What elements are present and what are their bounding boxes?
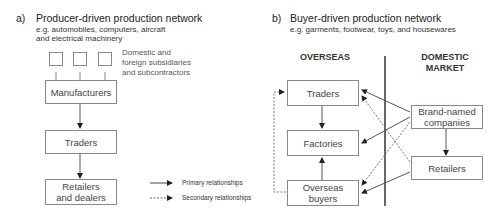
subsidiary-box-2 bbox=[73, 52, 87, 66]
traders-b-label: Traders bbox=[307, 88, 339, 99]
legend-secondary: Secondary relationships bbox=[182, 194, 251, 201]
overseas-buyers-line-1: Overseas bbox=[303, 182, 344, 193]
brand-line-2: companies bbox=[424, 117, 470, 128]
panel-a-title: Producer-driven production network bbox=[36, 12, 202, 24]
retailers-line-2: and dealers bbox=[56, 192, 106, 203]
panel-a-label: a) bbox=[16, 12, 25, 24]
brand-line-1: Brand-named bbox=[418, 106, 476, 117]
manufacturers-label: Manufacturers bbox=[51, 87, 112, 98]
subsidiaries-note-1: Domestic and bbox=[122, 48, 171, 57]
subsidiaries-note-3: and subcontractors bbox=[122, 68, 190, 77]
panel-b-subtitle: e.g. garments, footwear, toys, and house… bbox=[290, 25, 456, 34]
traders-a-label: Traders bbox=[65, 137, 97, 148]
panel-b-title: Buyer-driven production network bbox=[290, 12, 441, 24]
overseas-header: OVERSEAS bbox=[290, 52, 360, 63]
subsidiaries-note-2: foreign subsidiaries bbox=[122, 58, 191, 67]
retailers-node-b: Retailers bbox=[411, 156, 483, 180]
domestic-header-2: MARKET bbox=[405, 63, 485, 74]
brand-named-companies-node: Brand-named companies bbox=[411, 105, 483, 129]
traders-node-a: Traders bbox=[45, 130, 117, 154]
factories-node: Factories bbox=[287, 130, 359, 156]
traders-node-b: Traders bbox=[287, 80, 359, 106]
factories-label: Factories bbox=[303, 138, 342, 149]
panel-b-label: b) bbox=[272, 12, 281, 24]
retailers-b-label: Retailers bbox=[428, 163, 466, 174]
manufacturers-node: Manufacturers bbox=[45, 80, 117, 104]
panel-a-subtitle-2: and electrical machinery bbox=[36, 34, 122, 43]
retailers-dealers-node: Retailers and dealers bbox=[45, 179, 117, 205]
subsidiary-box-3 bbox=[98, 52, 112, 66]
subsidiary-box-1 bbox=[49, 52, 63, 66]
retailers-line-1: Retailers bbox=[62, 181, 100, 192]
overseas-buyers-line-2: buyers bbox=[309, 193, 338, 204]
panel-a-subtitle-1: e.g. automobiles, computers, aircraft bbox=[36, 25, 165, 34]
overseas-buyers-node: Overseas buyers bbox=[287, 180, 359, 206]
legend-primary: Primary relationships bbox=[182, 179, 243, 186]
domestic-header-1: DOMESTIC bbox=[405, 52, 485, 63]
